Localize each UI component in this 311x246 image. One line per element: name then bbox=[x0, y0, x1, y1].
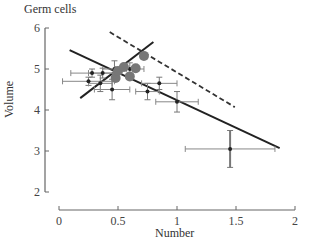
grey-data-point bbox=[119, 62, 129, 72]
grey-data-point bbox=[139, 51, 149, 61]
data-points bbox=[87, 51, 233, 151]
black-data-point bbox=[228, 147, 232, 151]
y-tick-label: 5 bbox=[34, 62, 40, 76]
chart: Germ cells Volume Number 2345600.511.52 bbox=[0, 0, 311, 246]
x-tick-label: 0 bbox=[56, 214, 62, 228]
x-tick-label: 1 bbox=[174, 214, 180, 228]
black-data-point bbox=[157, 81, 161, 85]
black-data-point bbox=[87, 79, 91, 83]
x-tick-label: 1.5 bbox=[229, 214, 244, 228]
plot-area: 2345600.511.52 bbox=[0, 0, 311, 246]
y-tick-label: 6 bbox=[34, 21, 40, 35]
fit-lines bbox=[70, 32, 280, 148]
grey-data-point bbox=[131, 63, 141, 73]
black-data-point bbox=[90, 71, 94, 75]
black-data-point bbox=[146, 90, 150, 94]
black-data-point bbox=[98, 81, 102, 85]
solid-fit-line bbox=[70, 50, 280, 148]
y-tick-label: 3 bbox=[34, 144, 40, 158]
error-bars bbox=[63, 61, 275, 168]
x-tick-label: 2 bbox=[292, 214, 298, 228]
x-tick-label: 0.5 bbox=[111, 214, 126, 228]
black-data-point bbox=[101, 71, 105, 75]
y-tick-label: 4 bbox=[34, 103, 40, 117]
y-tick-label: 2 bbox=[34, 185, 40, 199]
black-data-point bbox=[175, 100, 179, 104]
black-data-point bbox=[110, 88, 114, 92]
grey-data-point bbox=[125, 71, 135, 81]
